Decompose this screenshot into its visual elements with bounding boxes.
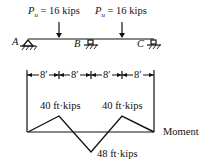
load-value: = 16 kips [41,5,80,16]
load-subscript: u [34,11,38,19]
moment-peak-left-label: 40 ft·kips [40,101,81,112]
moment-peak-right-label: 40 ft·kips [102,101,143,112]
span-label-4: 8′ [133,70,143,81]
moment-negative-label: 48 ft·kips [97,149,138,160]
moment-curve [28,116,154,152]
arrowhead-right [119,33,125,38]
span-label-3: 8′ [102,70,112,81]
support-label-b: B [74,39,80,50]
span-label-1: 8′ [39,70,49,81]
support-label-a: A [12,37,18,48]
arrowhead-left [56,33,62,38]
span-label-2: 8′ [70,70,80,81]
moment-axis-label: Moment [163,127,199,138]
load-subscript: u [101,11,105,19]
support-b-roller [88,40,93,44]
beam-diagram [0,0,209,163]
support-a-pin [23,40,33,46]
load-label-left: Pu = 16 kips [28,6,80,19]
support-c-roller [151,40,156,44]
load-label-right: Pu = 16 kips [95,6,147,19]
load-value: = 16 kips [108,5,147,16]
support-label-c: C [137,39,144,50]
